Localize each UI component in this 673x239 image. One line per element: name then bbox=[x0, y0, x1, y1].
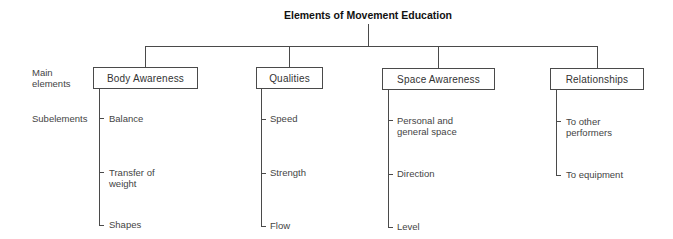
stem-body-awareness bbox=[145, 46, 146, 67]
tick bbox=[388, 174, 393, 175]
stem-qualities bbox=[289, 46, 290, 67]
tick bbox=[388, 227, 393, 228]
tick bbox=[99, 225, 104, 226]
sub-strength: Strength bbox=[270, 167, 306, 178]
sub-to-other-performers: To other performers bbox=[566, 116, 612, 138]
sub-balance: Balance bbox=[109, 113, 143, 124]
sub-line-relationships bbox=[556, 90, 557, 176]
box-qualities: Qualities bbox=[256, 67, 323, 89]
sub-line-space-awareness bbox=[388, 90, 389, 227]
sub-line2: performers bbox=[566, 127, 612, 138]
sub-line1: Personal and bbox=[397, 115, 457, 126]
bus-line bbox=[145, 46, 598, 47]
tick bbox=[388, 120, 393, 121]
tick bbox=[261, 119, 266, 120]
tick bbox=[261, 226, 266, 227]
box-label: Qualities bbox=[269, 73, 310, 84]
tick bbox=[556, 121, 561, 122]
sub-shapes: Shapes bbox=[109, 219, 141, 230]
sub-line-qualities bbox=[261, 89, 262, 227]
main-label-line1: Main bbox=[32, 67, 71, 78]
sub-speed: Speed bbox=[270, 113, 297, 124]
stem-relationships bbox=[597, 46, 598, 68]
sub-line1: To other bbox=[566, 116, 612, 127]
box-label: Relationships bbox=[566, 74, 629, 85]
main-elements-label: Main elements bbox=[32, 67, 71, 89]
sub-level: Level bbox=[397, 221, 420, 232]
box-label: Space Awareness bbox=[397, 74, 480, 85]
tick bbox=[99, 172, 104, 173]
main-label-line2: elements bbox=[32, 78, 71, 89]
sub-line-body-awareness bbox=[99, 89, 100, 226]
tick bbox=[261, 173, 266, 174]
box-space-awareness: Space Awareness bbox=[382, 68, 495, 90]
sub-to-equipment: To equipment bbox=[566, 169, 623, 180]
tick bbox=[556, 175, 561, 176]
sub-flow: Flow bbox=[270, 220, 290, 231]
sub-line2: weight bbox=[109, 178, 155, 189]
subelements-label: Subelements bbox=[32, 113, 87, 124]
box-body-awareness: Body Awareness bbox=[93, 67, 198, 89]
box-relationships: Relationships bbox=[550, 68, 644, 90]
box-label: Body Awareness bbox=[107, 73, 184, 84]
sub-line1: Transfer of bbox=[109, 167, 155, 178]
stem-space-awareness bbox=[438, 46, 439, 68]
sub-transfer-of-weight: Transfer of weight bbox=[109, 167, 155, 189]
tick bbox=[99, 118, 104, 119]
title-stem-line bbox=[368, 24, 369, 46]
diagram-title: Elements of Movement Education bbox=[284, 9, 452, 21]
sub-line2: general space bbox=[397, 126, 457, 137]
sub-personal-general-space: Personal and general space bbox=[397, 115, 457, 137]
sub-direction: Direction bbox=[397, 168, 435, 179]
